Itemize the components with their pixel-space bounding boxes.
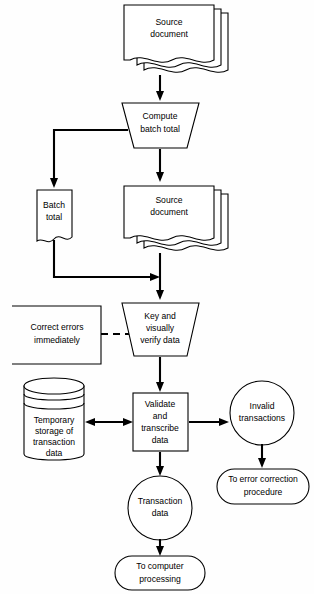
validate-transcribe-label-line2: and: [153, 411, 168, 421]
to-error-correction-label-line2: procedure: [244, 487, 283, 497]
flowchart-svg: Source document Compute batch total Batc: [0, 0, 314, 594]
compute-batch-total-label-line2: batch total: [140, 124, 180, 134]
compute-batch-total-label-line1: Compute: [143, 111, 178, 121]
edge-invalid-to-errorcorrection: [258, 444, 266, 468]
node-invalid-transactions[interactable]: Invalid transactions: [230, 381, 294, 445]
flowchart-canvas: Source document Compute batch total Batc: [0, 0, 314, 594]
key-verify-label-line2: visually: [146, 323, 175, 333]
transaction-data-label-line1: Transaction: [138, 496, 183, 506]
source-document-top-label-line1: Source: [155, 17, 182, 27]
node-key-verify[interactable]: Key and visually verify data: [122, 303, 199, 356]
edge-keyverify-to-validate: [156, 357, 164, 392]
correct-errors-label-line2: immediately: [34, 335, 81, 345]
node-to-error-correction[interactable]: To error correction procedure: [217, 469, 309, 504]
validate-transcribe-label-line3: transcribe: [141, 423, 179, 433]
key-verify-label-line1: Key and: [144, 311, 176, 321]
to-error-correction-label-line1: To error correction: [228, 474, 298, 484]
node-source-document-mid[interactable]: Source document: [124, 186, 228, 250]
node-temporary-storage[interactable]: Temporary storage of transaction data: [24, 378, 84, 460]
temporary-storage-label-line4: data: [46, 448, 63, 458]
transaction-data-label-line2: data: [152, 508, 169, 518]
temporary-storage-label-line2: storage of: [35, 426, 74, 436]
edge-compute-to-sourcedoc-mid: [156, 149, 164, 182]
edge-validate-to-transaction-data: [156, 452, 164, 476]
node-source-document-top[interactable]: Source document: [124, 5, 228, 72]
correct-errors-label-line1: Correct errors: [30, 322, 83, 332]
temporary-storage-top-disk: [24, 378, 84, 394]
node-to-computer-processing[interactable]: To computer processing: [115, 556, 205, 590]
edge-transactiondata-to-computerprocessing: [156, 539, 164, 556]
source-document-mid-label-line1: Source: [155, 195, 182, 205]
to-computer-processing-label-line2: processing: [139, 574, 181, 584]
batch-total-label-line2: total: [46, 212, 62, 222]
node-validate-transcribe[interactable]: Validate and transcribe data: [133, 393, 188, 451]
to-computer-processing-label-line1: To computer: [136, 561, 183, 571]
key-verify-label-line3: verify data: [140, 335, 180, 345]
validate-transcribe-label-line4: data: [152, 435, 169, 445]
node-compute-batch-total[interactable]: Compute batch total: [122, 103, 199, 148]
temporary-storage-label-line1: Temporary: [34, 415, 75, 425]
node-transaction-data[interactable]: Transaction data: [128, 476, 192, 540]
invalid-transactions-label-line2: transactions: [239, 413, 285, 423]
source-document-top-label-line2: document: [150, 29, 188, 39]
temporary-storage-label-line3: transaction: [33, 437, 75, 447]
invalid-transactions-label-line1: Invalid: [250, 401, 275, 411]
edge-validate-storage-bidirectional: [85, 418, 133, 426]
edge-sourcedoc-to-compute: [156, 75, 164, 101]
source-document-mid-label-line2: document: [150, 207, 188, 217]
edge-validate-to-invalid: [189, 418, 229, 426]
validate-transcribe-label-line1: Validate: [145, 399, 176, 409]
batch-total-label-line1: Batch: [43, 200, 65, 210]
node-correct-errors[interactable]: Correct errors immediately: [12, 306, 101, 364]
node-batch-total[interactable]: Batch total: [37, 190, 72, 242]
edge-compute-to-batchtotal: [50, 130, 128, 188]
